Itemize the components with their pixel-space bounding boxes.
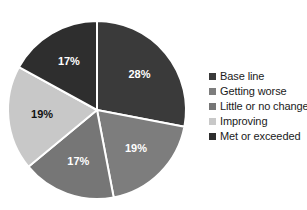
pie-slice-label: 28% [128,68,150,80]
legend-item-label: Met or exceeded [220,130,300,142]
chart-legend: Base lineGetting worseLittle or no chang… [209,69,307,143]
legend-item[interactable]: Improving [209,114,307,128]
legend-swatch-icon [209,88,216,95]
legend-item-label: Little or no change [220,100,307,112]
legend-item[interactable]: Base line [209,69,307,83]
pie-slice-label: 19% [125,142,147,154]
legend-item-label: Improving [220,115,267,127]
legend-item-label: Base line [220,70,264,82]
legend-swatch-icon [209,133,216,140]
legend-item[interactable]: Getting worse [209,84,307,98]
pie-chart-figure: 28%19%17%19%17% Base lineGetting worseLi… [0,0,307,210]
pie-slice-label: 17% [67,155,89,167]
legend-item[interactable]: Little or no change [209,99,307,113]
legend-swatch-icon [209,73,216,80]
pie-slice-label: 19% [31,108,53,120]
legend-swatch-icon [209,103,216,110]
legend-item[interactable]: Met or exceeded [209,129,307,143]
pie-slice-label: 17% [58,55,80,67]
legend-item-label: Getting worse [220,85,287,97]
legend-swatch-icon [209,118,216,125]
